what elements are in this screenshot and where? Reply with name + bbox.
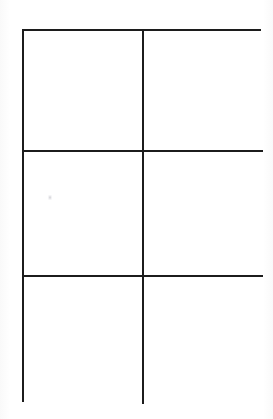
scanned-page	[0, 0, 273, 419]
grid-cell-r3c2-content	[144, 277, 263, 404]
grid-table	[22, 29, 261, 402]
grid-cell-r1c2[interactable]	[144, 31, 263, 152]
grid-cell-r3c1[interactable]	[24, 277, 144, 404]
grid-cell-r2c1-content	[24, 152, 142, 275]
grid-cell-r1c2-content	[144, 31, 263, 150]
grid-cell-r3c1-content	[24, 277, 142, 404]
grid-cell-r1c1[interactable]	[24, 31, 144, 152]
grid-cell-r2c1[interactable]	[24, 152, 144, 277]
grid-cell-r2c2[interactable]	[144, 152, 263, 277]
grid-cell-r1c1-content	[24, 31, 142, 150]
grid-cell-r2c2-content	[144, 152, 263, 275]
grid-cell-r3c2[interactable]	[144, 277, 263, 404]
